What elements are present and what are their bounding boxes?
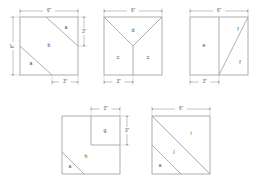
figure-5-region-a: a [159, 162, 162, 168]
diagram-canvas: a b a 6" 6" 3" 3" d c c [0, 0, 265, 185]
square-dissection-diagram: a b a 6" 6" 3" 3" d c c [0, 0, 265, 185]
figure-1-dim-bottom-label: 3" [63, 79, 68, 84]
figure-1-region-a-top: a [65, 24, 68, 30]
figure-3-dim-top-label: 6" [217, 8, 222, 13]
figure-4-region-h: h [85, 153, 88, 159]
figure-2-dim-bottom-label: 3" [116, 79, 121, 84]
figure-3: e f f 6" 3" [190, 8, 248, 86]
figure-2: d c c 6" 3" [104, 8, 162, 86]
figure-1: a b a 6" 6" 3" 3" [10, 8, 88, 86]
figure-2-region-c-right: c [147, 54, 150, 60]
figure-5-region-j: j [172, 148, 174, 154]
figure-1-region-b: b [48, 42, 51, 48]
figure-4: g h a 3" 3" [62, 106, 131, 175]
figure-5-dim-top-label: 6" [179, 106, 184, 111]
figure-4-dim-right-label: 3" [125, 128, 130, 133]
figure-4-dim-top-label: 3" [103, 106, 108, 111]
figure-1-dim-top-label: 6" [47, 8, 52, 13]
figure-1-dim-right-label: 3" [82, 29, 87, 34]
figure-1-dim-left-label: 6" [10, 44, 15, 49]
figure-2-dim-top-label: 6" [131, 8, 136, 13]
figure-4-region-a: a [69, 163, 72, 169]
figure-3-dim-bottom-label: 3" [202, 79, 207, 84]
figure-3-region-e: e [203, 42, 206, 48]
figure-1-region-a-bottom: a [30, 60, 33, 66]
figure-2-region-c-left: c [117, 54, 120, 60]
figure-5: i j a 6" [152, 106, 210, 175]
figure-4-region-g: g [104, 127, 107, 133]
figure-2-region-d: d [132, 27, 135, 33]
figure-5-region-i: i [190, 130, 191, 136]
